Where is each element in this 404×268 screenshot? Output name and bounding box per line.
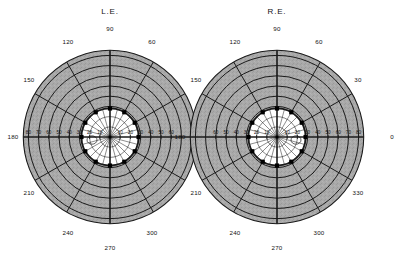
right-eye-meridian-label-120: 120 — [230, 38, 241, 45]
ecc-label-nasal-20: 20 — [254, 130, 260, 135]
ecc-label-temporal-50: 50 — [325, 130, 331, 135]
ecc-label-nasal-30: 30 — [244, 130, 250, 135]
right-eye-plot — [190, 50, 363, 223]
left-eye-meridian-label-150: 150 — [24, 76, 35, 83]
ecc-label-temporal-20: 20 — [295, 130, 301, 135]
perimetry-svg: 8070605040302010102030405060L.E.90120150… — [0, 0, 404, 268]
right-eye-meridian-label-180: 180 — [175, 133, 186, 140]
ecc-label-temporal-40: 40 — [148, 130, 154, 135]
left-eye-title: L.E. — [101, 7, 118, 16]
isopter-marker-270 — [275, 163, 279, 167]
left-eye-meridian-label-60: 60 — [148, 38, 156, 45]
ecc-label-nasal-40: 40 — [234, 130, 240, 135]
visual-field-chart: 8070605040302010102030405060L.E.90120150… — [0, 0, 404, 268]
ecc-label-nasal-10: 10 — [264, 130, 270, 135]
isopter-marker-210 — [83, 149, 87, 153]
right-eye-meridian-label-0: 0 — [390, 133, 394, 140]
isopter-marker-240 — [261, 160, 265, 164]
right-eye-meridian-label-30: 30 — [354, 76, 362, 83]
ecc-label-temporal-20: 20 — [128, 130, 134, 135]
isopter-marker-210 — [250, 149, 254, 153]
ecc-label-temporal-60: 60 — [336, 130, 342, 135]
isopter-marker-60 — [289, 110, 293, 114]
ecc-label-nasal-10: 10 — [97, 130, 103, 135]
isopter-marker-180 — [246, 135, 250, 139]
ecc-label-temporal-10: 10 — [285, 130, 291, 135]
right-eye-meridian-label-150: 150 — [191, 76, 202, 83]
left-eye-plot — [23, 50, 196, 223]
isopter-marker-330 — [300, 149, 304, 153]
isopter-marker-0 — [136, 135, 140, 139]
isopter-marker-90 — [108, 106, 112, 110]
ecc-label-nasal-80: 80 — [26, 130, 32, 135]
ecc-label-nasal-50: 50 — [56, 130, 62, 135]
isopter-marker-330 — [133, 149, 137, 153]
ecc-label-temporal-30: 30 — [305, 130, 311, 135]
ecc-label-nasal-20: 20 — [87, 130, 93, 135]
isopter-marker-0 — [303, 135, 307, 139]
right-eye-meridian-label-90: 90 — [273, 25, 281, 32]
isopter-marker-300 — [289, 160, 293, 164]
ecc-label-nasal-40: 40 — [67, 130, 73, 135]
ecc-label-nasal-50: 50 — [223, 130, 229, 135]
ecc-label-nasal-70: 70 — [36, 130, 42, 135]
ecc-label-temporal-10: 10 — [118, 130, 124, 135]
ecc-label-temporal-40: 40 — [315, 130, 321, 135]
left-eye-meridian-label-180: 180 — [8, 133, 19, 140]
left-eye-meridian-label-300: 300 — [147, 229, 158, 236]
isopter-marker-150 — [83, 121, 87, 125]
ecc-label-temporal-80: 80 — [356, 130, 362, 135]
isopter-marker-240 — [94, 160, 98, 164]
left-eye-meridian-label-240: 240 — [63, 229, 74, 236]
isopter-marker-60 — [122, 110, 126, 114]
isopter-marker-120 — [94, 110, 98, 114]
left-eye-meridian-label-270: 270 — [105, 244, 116, 251]
isopter-marker-90 — [275, 106, 279, 110]
fixation-point — [276, 136, 279, 139]
right-eye-meridian-label-330: 330 — [353, 189, 364, 196]
isopter-marker-150 — [250, 121, 254, 125]
right-eye-meridian-label-240: 240 — [230, 229, 241, 236]
ecc-label-temporal-60: 60 — [169, 130, 175, 135]
isopter-marker-120 — [261, 110, 265, 114]
right-eye-meridian-label-210: 210 — [191, 189, 202, 196]
ecc-label-temporal-70: 70 — [346, 130, 352, 135]
fixation-point — [109, 136, 112, 139]
ecc-label-nasal-60: 60 — [46, 130, 52, 135]
isopter-marker-300 — [122, 160, 126, 164]
left-eye-meridian-label-210: 210 — [24, 189, 35, 196]
right-eye-meridian-label-60: 60 — [315, 38, 323, 45]
isopter-marker-180 — [79, 135, 83, 139]
ecc-label-nasal-30: 30 — [77, 130, 83, 135]
left-eye-meridian-label-120: 120 — [63, 38, 74, 45]
ecc-label-temporal-30: 30 — [138, 130, 144, 135]
isopter-marker-270 — [108, 163, 112, 167]
right-eye-title: R.E. — [268, 7, 287, 16]
ecc-label-nasal-60: 60 — [213, 130, 219, 135]
right-eye-meridian-label-300: 300 — [314, 229, 325, 236]
isopter-marker-30 — [300, 121, 304, 125]
isopter-marker-30 — [133, 121, 137, 125]
left-eye-meridian-label-90: 90 — [106, 25, 114, 32]
right-eye-meridian-label-270: 270 — [272, 244, 283, 251]
ecc-label-temporal-50: 50 — [158, 130, 164, 135]
